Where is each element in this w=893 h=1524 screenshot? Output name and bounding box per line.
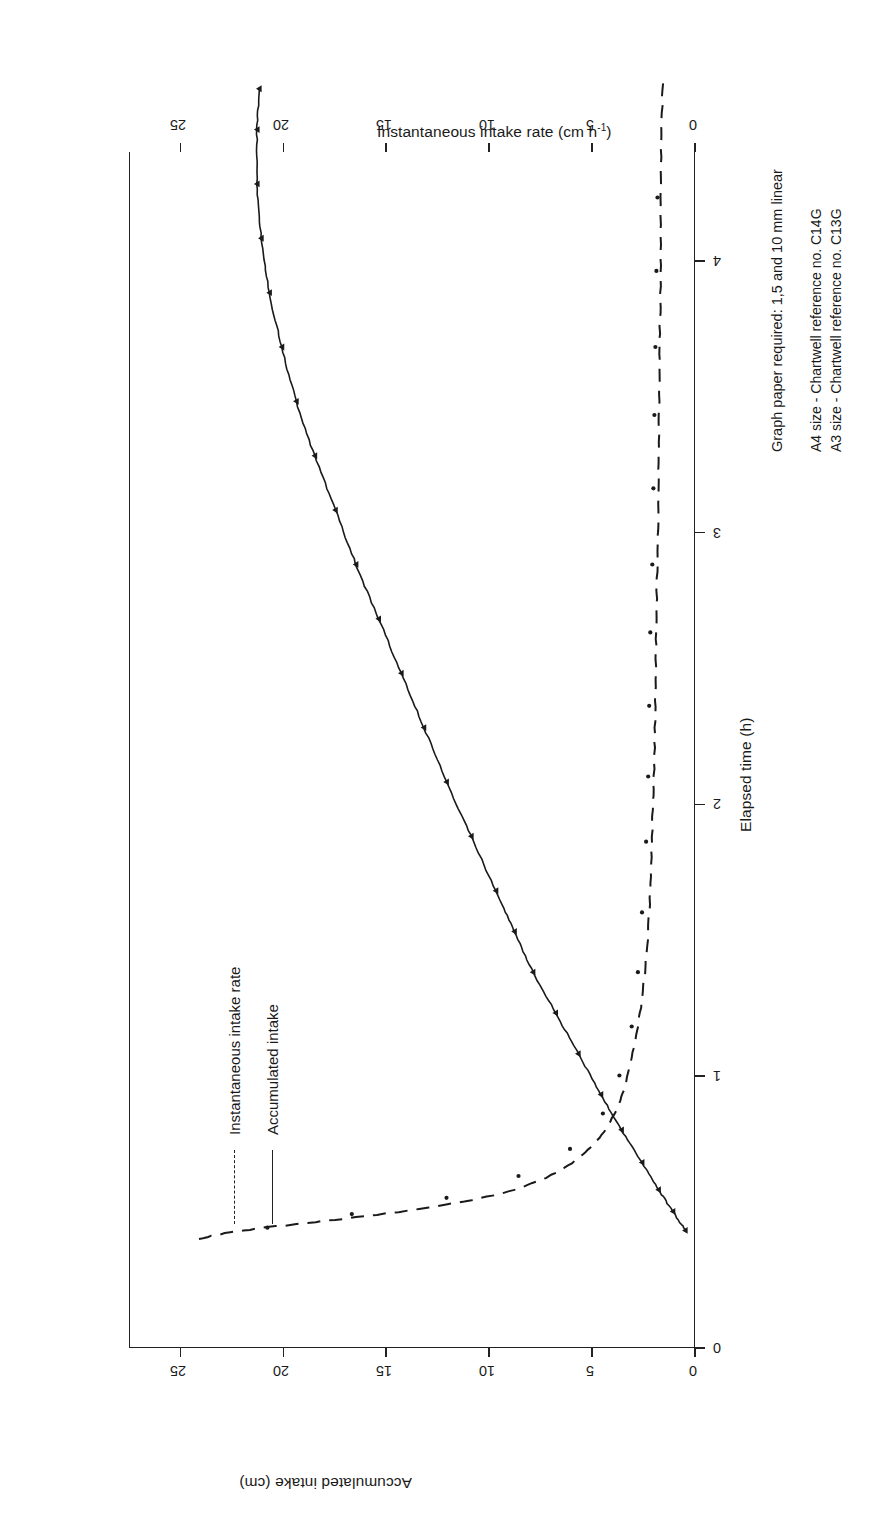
- tick-label: 10: [472, 117, 502, 133]
- tick-mark: [179, 143, 181, 152]
- tick-mark: [591, 1348, 593, 1357]
- x-axis-title: Elapsed time (h): [737, 718, 755, 832]
- scatter-point: [652, 413, 656, 417]
- scatter-point: [646, 774, 650, 778]
- scatter-point: [629, 1024, 633, 1028]
- tick-mark: [282, 143, 284, 152]
- scatter-point: [567, 1147, 571, 1151]
- legend-item-accumulated: Accumulated intake: [265, 967, 280, 1224]
- scatter-point: [654, 269, 658, 273]
- tick-label: 0: [678, 1363, 708, 1379]
- scatter-point: [653, 345, 657, 349]
- legend-label-instantaneous: Instantaneous intake rate: [227, 967, 242, 1135]
- chart-curves: [129, 152, 695, 1348]
- dashed-line-swatch-icon: [234, 1150, 235, 1224]
- graph-paper-note: Graph paper required: 1,5 and 10 mm line…: [759, 60, 879, 460]
- scatter-point: [617, 1073, 621, 1077]
- tick-mark: [488, 143, 490, 152]
- accumulated-intake-line: [256, 89, 685, 1231]
- scatter-point: [635, 970, 639, 974]
- scatter-point: [516, 1174, 520, 1178]
- scatter-point: [651, 486, 655, 490]
- paper-note-line-1: Graph paper required: 1,5 and 10 mm line…: [767, 169, 788, 452]
- tick-mark: [179, 1348, 181, 1357]
- tick-label: 2: [702, 796, 732, 812]
- figure-stage: Accumulated intake (cm) Instantaneous in…: [77, 72, 817, 1452]
- tick-mark: [591, 143, 593, 152]
- scatter-points: [265, 195, 659, 1229]
- y-axis-right-title-tail: ): [606, 123, 611, 140]
- tick-label: 20: [266, 117, 296, 133]
- scatter-point: [655, 195, 659, 199]
- tick-mark: [488, 1348, 490, 1357]
- paper-note-line-2: A4 size - Chartwell reference no. C14G: [806, 169, 826, 452]
- tick-label: 5: [575, 117, 605, 133]
- scatter-point: [444, 1196, 448, 1200]
- scatter-point: [639, 910, 643, 914]
- tick-label: 25: [163, 117, 193, 133]
- legend-item-instantaneous: Instantaneous intake rate: [227, 967, 242, 1224]
- paper-note-line-3: A3 size - Chartwell reference no. C13G: [826, 169, 846, 452]
- data-point-marker: [256, 85, 262, 92]
- legend-label-accumulated: Accumulated intake: [265, 1004, 280, 1135]
- data-point-markers: [253, 85, 687, 1233]
- tick-label: 0: [702, 1340, 732, 1356]
- tick-label: 3: [702, 525, 732, 541]
- scatter-point: [644, 840, 648, 844]
- tick-label: 15: [369, 1363, 399, 1379]
- tick-label: 5: [575, 1363, 605, 1379]
- solid-line-swatch-icon: [272, 1150, 273, 1224]
- tick-mark: [694, 143, 696, 152]
- tick-label: 20: [266, 1363, 296, 1379]
- chart-legend: Instantaneous intake rate Accumulated in…: [227, 967, 303, 1224]
- tick-label: 1: [702, 1068, 732, 1084]
- scatter-point: [600, 1111, 604, 1115]
- scatter-point: [648, 630, 652, 634]
- scatter-point: [349, 1212, 353, 1216]
- tick-mark: [385, 1348, 387, 1357]
- scatter-point: [650, 562, 654, 566]
- y-axis-left-title: Accumulated intake (cm): [239, 1474, 412, 1492]
- tick-label: 10: [472, 1363, 502, 1379]
- tick-label: 4: [702, 253, 732, 269]
- tick-mark: [385, 143, 387, 152]
- accumulated-intake-series: [256, 89, 685, 1231]
- tick-mark: [694, 1348, 696, 1357]
- tick-mark: [282, 1348, 284, 1357]
- scatter-point: [647, 704, 651, 708]
- tick-label: 0: [678, 117, 708, 133]
- tick-label: 15: [369, 117, 399, 133]
- tick-label: 25: [163, 1363, 193, 1379]
